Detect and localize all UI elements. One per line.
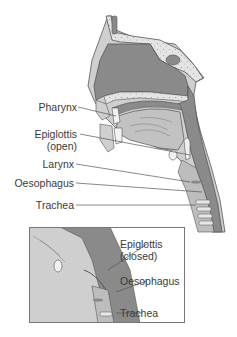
label-epiglottis-open-qualifier: (open)	[47, 140, 77, 152]
label-epiglottis-open: Epiglottis	[34, 128, 77, 140]
label-larynx: Larynx	[42, 158, 74, 170]
anatomy-diagram: Pharynx Epiglottis (open) Larynx Oesopha…	[0, 0, 237, 337]
inset-label-epiglottis-closed: Epiglottis	[120, 238, 163, 250]
label-oesophagus: Oesophagus	[14, 177, 74, 189]
label-trachea: Trachea	[36, 199, 74, 211]
sphenoid-sinus	[166, 55, 180, 65]
inset-label-oesophagus: Oesophagus	[120, 275, 180, 287]
inset-label-epiglottis-closed-qualifier: (closed)	[120, 250, 157, 262]
label-pharynx: Pharynx	[38, 101, 77, 113]
vocal-cords	[191, 181, 201, 184]
inset-label-trachea: Trachea	[120, 307, 158, 319]
tongue	[116, 109, 184, 150]
frontal-sinus	[112, 16, 117, 34]
